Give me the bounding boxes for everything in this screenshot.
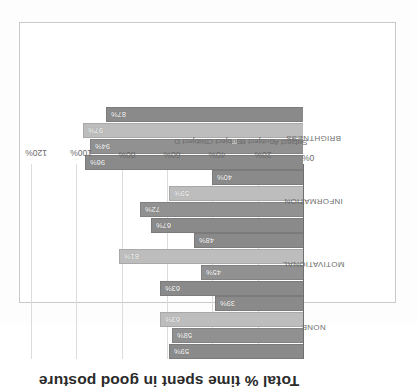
legend-label: Subject D: [174, 138, 209, 147]
bar-value-label: 67%: [156, 221, 171, 230]
rotated-chart-stage: Total % time spent in good posture 59%58…: [19, 118, 396, 391]
bar-value-label: 72%: [145, 205, 160, 214]
category-label: NONE: [305, 296, 393, 359]
category-label-text: MOTIVATIONAL: [283, 260, 345, 269]
bar[interactable]: 59%: [169, 186, 303, 201]
bar-value-label: 48%: [199, 236, 214, 245]
legend-label: Subject B: [240, 138, 274, 147]
bar[interactable]: 87%: [106, 107, 303, 122]
bar-value-label: 81%: [124, 252, 139, 261]
category-label-text: NONE: [301, 323, 325, 332]
category-label-text: INFORMATION: [284, 197, 343, 206]
bar[interactable]: 81%: [119, 249, 303, 264]
legend-label: Subject C: [207, 138, 242, 147]
bar-value-label: 59%: [174, 347, 189, 356]
bar-value-label: 39%: [220, 299, 235, 308]
bar-group: 67%72%59%40%: [31, 170, 303, 233]
chart-legend: Subject ASubject BSubject CSubject D: [31, 122, 303, 162]
category-label: INFORMATION: [305, 170, 393, 233]
category-label: MOTIVATIONAL: [305, 233, 393, 296]
bar[interactable]: 63%: [160, 312, 303, 327]
bar-groups: 59%58%63%39%63%45%81%48%67%72%59%40%96%9…: [31, 164, 303, 359]
bar-chart: Total % time spent in good posture 59%58…: [19, 118, 396, 391]
bar[interactable]: 58%: [172, 328, 303, 343]
bar[interactable]: 48%: [194, 233, 303, 248]
legend-item[interactable]: Subject D: [187, 125, 204, 160]
legend-item[interactable]: Subject A: [286, 125, 303, 159]
bar-group: 59%58%63%39%: [31, 296, 303, 359]
category-label: BRIGHTNESS: [305, 107, 393, 170]
bar[interactable]: 63%: [160, 281, 303, 296]
legend-item[interactable]: Subject C: [220, 125, 237, 160]
bar-value-label: 58%: [177, 331, 192, 340]
legend-item[interactable]: Subject B: [253, 125, 270, 159]
y-axis-title: Total % time spent in good posture: [19, 365, 319, 391]
bar-value-label: 40%: [217, 173, 232, 182]
bar-value-label: 45%: [206, 268, 221, 277]
bar[interactable]: 67%: [151, 218, 303, 233]
bar[interactable]: 59%: [169, 344, 303, 359]
legend-label: Subject A: [274, 138, 308, 147]
bar-value-label: 59%: [174, 189, 189, 198]
bar-value-label: 63%: [165, 284, 180, 293]
bar[interactable]: 72%: [140, 202, 303, 217]
bar-value-label: 63%: [165, 315, 180, 324]
bar[interactable]: 39%: [215, 296, 303, 311]
bar[interactable]: 40%: [212, 170, 303, 185]
y-axis-title-text: Total % time spent in good posture: [39, 372, 300, 390]
plot-area: 59%58%63%39%63%45%81%48%67%72%59%40%96%9…: [31, 164, 303, 359]
bar-value-label: 87%: [111, 110, 126, 119]
bar-group: 63%45%81%48%: [31, 233, 303, 296]
x-axis-category-labels: NONEMOTIVATIONALINFORMATIONBRIGHTNESS: [305, 164, 393, 359]
